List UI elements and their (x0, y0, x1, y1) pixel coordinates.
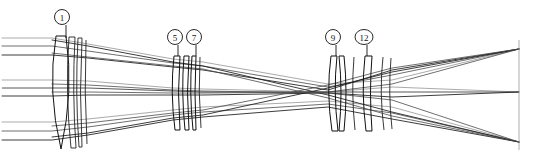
callout-label: 7 (192, 33, 197, 43)
callout-7[interactable]: 7 (187, 30, 202, 57)
callout-label: 12 (360, 33, 369, 43)
callout-label: 1 (60, 13, 65, 23)
callout-label: 9 (331, 33, 336, 43)
callout-9[interactable]: 9 (326, 30, 341, 57)
callout-label: 5 (173, 33, 178, 43)
callout-12[interactable]: 12 (355, 30, 373, 57)
lens-group-front (52, 36, 87, 149)
ray-bundle-lower-field (2, 101, 519, 142)
callout-5[interactable]: 5 (168, 30, 183, 57)
ray-crossing-lower (52, 49, 519, 137)
lens-element-12 (363, 56, 372, 131)
lens-diagram-container: 1 5 7 9 12 (0, 0, 547, 166)
lens-element-11 (353, 57, 355, 130)
optical-ray-diagram: 1 5 7 9 12 (0, 0, 547, 166)
lens-element-3 (77, 38, 82, 147)
lens-element-13 (381, 57, 384, 130)
callout-1[interactable]: 1 (55, 10, 70, 39)
